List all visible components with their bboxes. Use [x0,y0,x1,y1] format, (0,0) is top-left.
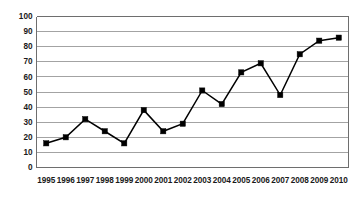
data-point-marker [336,35,341,40]
y-tick-label: 0 [28,163,33,172]
x-tick-label: 1996 [57,176,76,185]
data-point-marker [141,108,146,113]
x-tick-label: 2007 [271,176,290,185]
x-tick-label: 2001 [154,176,173,185]
data-point-marker [180,121,185,126]
x-tick-label: 2010 [330,176,349,185]
data-point-marker [122,141,127,146]
y-tick-label: 100 [19,12,33,21]
x-tick-label: 2000 [135,176,154,185]
y-tick-label: 10 [23,148,33,157]
x-tick-label: 1995 [37,176,56,185]
data-point-marker [239,70,244,75]
data-point-marker [219,101,224,106]
x-tick-label: 2008 [291,176,310,185]
data-point-marker [102,129,107,134]
x-tick-label: 2002 [174,176,193,185]
data-point-marker [258,61,263,66]
y-tick-label: 80 [23,42,33,51]
y-tick-label: 20 [23,133,33,142]
y-tick-label: 30 [23,118,33,127]
x-tick-label: 2009 [310,176,329,185]
y-tick-label: 70 [23,57,33,66]
x-tick-label: 2003 [193,176,212,185]
x-tick-label: 2005 [232,176,251,185]
chart-canvas: 0102030405060708090100 19951996199719981… [0,0,359,197]
data-point-marker [317,38,322,43]
data-point-marker [278,92,283,97]
line-chart-figure: 0102030405060708090100 19951996199719981… [0,0,359,197]
data-point-marker [83,117,88,122]
data-point-marker [63,135,68,140]
y-tick-label: 90 [23,27,33,36]
x-tick-label: 2006 [252,176,271,185]
x-tick-label: 1997 [76,176,95,185]
x-tick-label: 1999 [115,176,134,185]
data-point-marker [297,52,302,57]
y-tick-label: 40 [23,103,33,112]
data-point-marker [161,129,166,134]
x-tick-label: 1998 [96,176,115,185]
data-point-marker [200,88,205,93]
y-tick-label: 50 [23,88,33,97]
x-axis-tick-labels: 1995199619971998199920002001200220032004… [37,176,348,185]
y-tick-label: 60 [23,73,33,82]
data-point-marker [44,141,49,146]
x-tick-label: 2004 [213,176,232,185]
